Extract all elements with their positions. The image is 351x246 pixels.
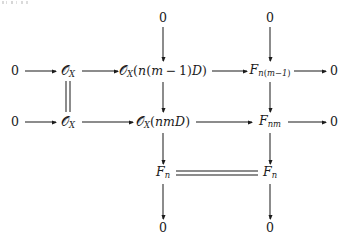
f-glyph: F [156, 164, 165, 179]
arrow-row2-ox-to-twist [82, 122, 133, 123]
subscript-x: X [69, 120, 75, 130]
row2-quotient-sheaf: Fnm [259, 115, 281, 129]
script-o-glyph: 𝒪 [119, 63, 127, 78]
arrow-col4-row1-to-row2 [270, 82, 271, 112]
row2-left-zero: 0 [11, 116, 19, 129]
f-glyph: F [259, 113, 268, 128]
scan-artifact [2, 1, 28, 4]
top-zero-column-3: 0 [159, 12, 167, 25]
arrow-col3-row2-to-row3 [163, 133, 164, 164]
row2-structure-sheaf: 𝒪X [61, 115, 75, 130]
subscript-n: n [272, 170, 277, 180]
f-glyph: F [249, 62, 258, 77]
row1-right-zero: 0 [330, 65, 338, 78]
script-o-glyph: 𝒪 [61, 114, 69, 129]
row1-structure-sheaf: 𝒪X [61, 64, 75, 79]
row2-twisted-sheaf: 𝒪X(nmD) [136, 115, 190, 130]
arrow-row1-quotient-to-zero [294, 71, 326, 72]
row1-quotient-sheaf: Fn(m−1) [249, 64, 290, 78]
arrow-row2-quotient-to-zero [288, 122, 326, 123]
row2-right-zero: 0 [330, 116, 338, 129]
top-zero-column-4: 0 [266, 12, 274, 25]
arrow-col3-row3-to-bottomzero [163, 184, 164, 219]
subscript-x: X [69, 69, 75, 79]
f-glyph: F [263, 164, 272, 179]
arrow-col3-topzero-to-row1 [163, 27, 164, 61]
row1-left-zero: 0 [11, 65, 19, 78]
arrow-col4-row2-to-row3 [270, 133, 271, 164]
subscript-n: n [165, 170, 170, 180]
bottom-zero-column-4: 0 [266, 222, 274, 235]
row1-twisted-sheaf: 𝒪X(n(m − 1)D) [119, 64, 207, 79]
script-o-glyph: 𝒪 [61, 63, 69, 78]
arrow-row1-twist-to-quotient [212, 71, 247, 72]
arrow-row1-ox-to-twist [82, 71, 118, 72]
subscript-nm: nm [268, 119, 281, 129]
bottom-zero-column-3: 0 [159, 222, 167, 235]
arrow-col4-topzero-to-row1 [270, 27, 271, 61]
subscript-n-m-minus-1: n(m−1) [258, 68, 290, 78]
arrow-row1-zero-to-ox [25, 71, 56, 72]
equality-row3-horizontal [176, 171, 258, 176]
commutative-diagram: 0 0 0 𝒪X 𝒪X(n(m − 1)D) Fn(m−1) 0 0 𝒪X 𝒪X… [0, 0, 351, 246]
arrow-col3-row1-to-row2 [163, 82, 164, 112]
equality-col2-vertical [66, 81, 71, 112]
arrow-col4-row3-to-bottomzero [270, 184, 271, 219]
script-o-glyph: 𝒪 [136, 114, 144, 129]
arrow-row2-zero-to-ox [25, 122, 56, 123]
row3-left-sheaf: Fn [156, 166, 170, 180]
row3-right-sheaf: Fn [263, 166, 277, 180]
arrow-row2-twist-to-quotient [196, 122, 252, 123]
